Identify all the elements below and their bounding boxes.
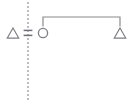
circle-node-icon xyxy=(38,28,47,37)
equals-sign-icon xyxy=(24,30,33,35)
diagram-canvas: △ = ○ △ xyxy=(0,0,135,106)
left-triangle-icon xyxy=(7,28,18,38)
span-bracket-path xyxy=(43,17,120,26)
diagram-vector-surface xyxy=(0,0,135,106)
right-triangle-icon xyxy=(114,28,125,38)
